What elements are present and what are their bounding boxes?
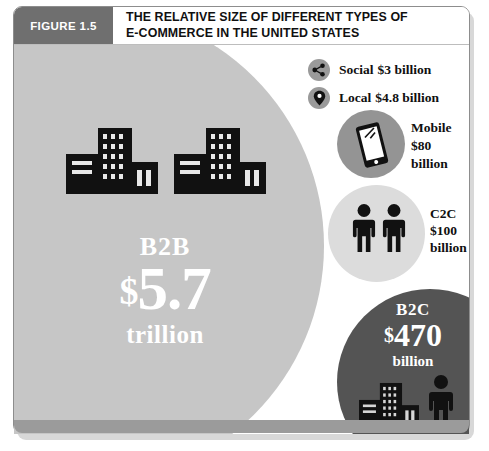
- figure-number-tab: FIGURE 1.5: [14, 7, 113, 44]
- figure-footer-bar: [14, 420, 469, 433]
- office-building-icon: [66, 128, 158, 194]
- b2c-label-group: B2C $470 billion: [348, 300, 469, 371]
- smartphone-icon: [354, 122, 390, 168]
- two-people-icon: [382, 203, 406, 253]
- mobile-value: $80: [411, 137, 469, 155]
- local-label: Local$4.8 billion: [339, 90, 439, 106]
- b2c-unit: billion: [348, 352, 469, 371]
- c2c-unit: billion: [430, 239, 469, 256]
- figure-title: THE RELATIVE SIZE OF DIFFERENT TYPES OF …: [126, 10, 463, 41]
- b2c-value: $470: [348, 319, 469, 352]
- header-divider: [14, 44, 469, 45]
- c2c-name: C2C: [430, 205, 469, 222]
- social-row: Social$3 billion: [308, 59, 431, 81]
- local-value: $4.8 billion: [375, 90, 439, 105]
- figure-title-line-1: THE RELATIVE SIZE OF DIFFERENT TYPES OF: [126, 10, 463, 26]
- mobile-unit: billion: [411, 155, 469, 173]
- social-name: Social: [339, 62, 374, 77]
- c2c-value: $100: [430, 222, 469, 239]
- b2b-value: $5.7: [52, 260, 278, 320]
- mobile-label-group: Mobile $80 billion: [411, 119, 469, 173]
- map-pin-icon: [308, 87, 330, 109]
- social-label: Social$3 billion: [339, 62, 431, 78]
- figure-number-label: FIGURE 1.5: [30, 20, 97, 32]
- figure-title-line-2: E-COMMERCE IN THE UNITED STATES: [126, 26, 463, 42]
- office-building-icon: [174, 128, 266, 194]
- figure-header: FIGURE 1.5 THE RELATIVE SIZE OF DIFFEREN…: [14, 7, 469, 44]
- figure-container: FIGURE 1.5 THE RELATIVE SIZE OF DIFFEREN…: [0, 0, 489, 451]
- mobile-name: Mobile: [411, 119, 469, 137]
- c2c-label-group: C2C $100 billion: [430, 205, 469, 256]
- social-value: $3 billion: [378, 62, 432, 77]
- b2b-amount: 5.7: [137, 255, 210, 322]
- b2b-unit: trillion: [52, 320, 278, 350]
- local-name: Local: [339, 90, 371, 105]
- c2c-icon-group: [352, 203, 406, 253]
- local-row: Local$4.8 billion: [308, 87, 439, 109]
- b2c-amount: 470: [394, 317, 442, 353]
- b2b-currency-symbol: $: [119, 270, 137, 312]
- b2b-icon-group: [66, 128, 266, 194]
- share-network-icon: [308, 59, 330, 81]
- two-people-icon: [352, 203, 376, 253]
- b2b-label-group: B2B $5.7 trillion: [52, 233, 278, 350]
- infographic-canvas: B2B $5.7 trillion B2C $470 billion: [14, 45, 469, 434]
- b2c-currency-symbol: $: [384, 324, 394, 346]
